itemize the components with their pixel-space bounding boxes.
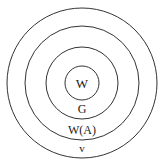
label-w: W [76,76,89,91]
concentric-circles-diagram: W G W(A) v [0,0,164,165]
label-g: G [78,102,87,116]
label-v: v [79,142,85,154]
label-w-a: W(A) [68,123,96,137]
